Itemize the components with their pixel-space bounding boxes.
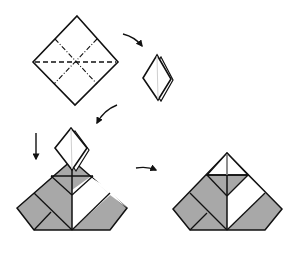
arrow-4 xyxy=(136,167,156,170)
arrow-1 xyxy=(123,34,142,46)
step-2-small-diamond xyxy=(143,55,173,101)
arrow-2 xyxy=(97,105,117,123)
step-4-result xyxy=(173,153,282,230)
origami-diagram xyxy=(0,0,301,257)
step-1-square xyxy=(33,16,118,105)
step-3-assembly xyxy=(17,128,127,230)
